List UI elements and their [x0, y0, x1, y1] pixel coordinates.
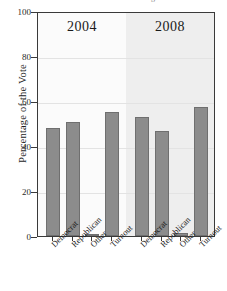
clipped-caption-text: g	[133, 0, 173, 3]
bar-2004-turnout	[105, 112, 119, 236]
y-axis-tick-label: 60	[5, 97, 31, 107]
panel-title-2008: 2008	[126, 19, 214, 35]
bar-2008-democrat	[135, 117, 149, 236]
y-axis-tick-label: 40	[5, 142, 31, 152]
bar-2004-democrat	[46, 128, 60, 236]
y-axis-tick-label: 20	[5, 187, 31, 197]
gridline	[38, 193, 214, 194]
y-axis-tick-label: 80	[5, 52, 31, 62]
gridline	[38, 148, 214, 149]
bar-chart-figure: g Percentage of the Vote 020406080100 20…	[0, 0, 227, 291]
y-axis-tick-label: 0	[5, 232, 31, 242]
plot-area: 2004 2008	[37, 12, 215, 237]
panel-title-2004: 2004	[38, 19, 126, 35]
gridline	[38, 58, 214, 59]
y-axis-tick-mark	[31, 237, 37, 238]
y-axis-tick-label: 100	[5, 7, 31, 17]
gridline	[38, 103, 214, 104]
bar-2008-turnout	[194, 107, 208, 236]
